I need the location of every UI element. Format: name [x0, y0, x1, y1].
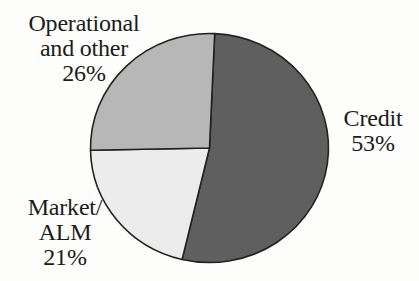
slice-label-market-alm: Market/ ALM 21%	[15, 195, 115, 270]
slice-label-credit: Credit 53%	[331, 106, 415, 156]
pie-chart-figure: Operational and other 26% Credit 53% Mar…	[0, 0, 419, 281]
slice-label-operational-and-other: Operational and other 26%	[8, 11, 160, 86]
